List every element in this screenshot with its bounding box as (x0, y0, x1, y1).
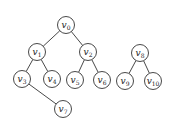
node-v2: v2 (80, 44, 97, 61)
node-v0: v0 (58, 17, 75, 34)
edge-v0-v2 (71, 32, 82, 46)
node-v9: v9 (117, 73, 134, 90)
node-label-subscript: 0 (67, 24, 71, 31)
edge-v1-v4 (41, 59, 48, 71)
forest-diagram: v0v1v2v3v4v5v6v7v8v9v10 (0, 0, 177, 130)
edge-v0-v1 (43, 31, 60, 46)
node-v4: v4 (44, 71, 61, 88)
node-label-subscript: 1 (38, 51, 42, 58)
node-v3: v3 (14, 71, 31, 88)
node-label-subscript: 7 (64, 108, 68, 115)
node-v8: v8 (132, 45, 149, 62)
node-label-subscript: 5 (76, 79, 80, 86)
edge-v2-v6 (92, 60, 98, 73)
node-label-subscript: 8 (141, 52, 145, 59)
node-label-subscript: 2 (89, 51, 93, 58)
node-label-subscript: 3 (23, 78, 27, 85)
edge-v2-v5 (79, 60, 85, 73)
edge-v8-v10 (144, 61, 150, 74)
node-v10: v10 (145, 73, 162, 90)
edges-layer (26, 31, 149, 104)
node-v5: v5 (67, 72, 84, 89)
edge-v8-v9 (129, 60, 136, 73)
edge-v1-v3 (26, 59, 33, 71)
node-label-subscript: 9 (126, 80, 130, 87)
node-v1: v1 (29, 44, 46, 61)
node-v6: v6 (94, 72, 111, 89)
nodes-layer: v0v1v2v3v4v5v6v7v8v9v10 (14, 17, 162, 118)
node-label-subscript: 6 (103, 79, 107, 86)
node-label-subscript: 4 (53, 78, 57, 85)
node-v7: v7 (55, 101, 72, 118)
node-label-subscript: 10 (152, 80, 160, 87)
